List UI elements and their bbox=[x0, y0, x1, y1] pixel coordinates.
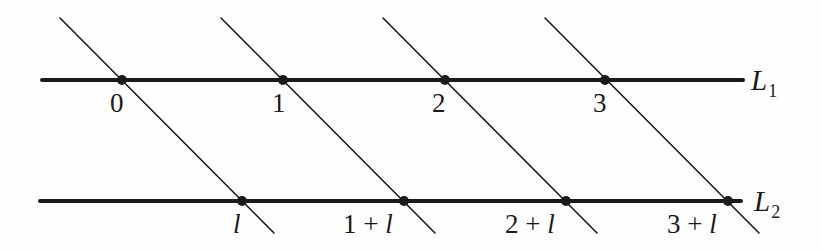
intersection-point-lower-1 bbox=[399, 196, 409, 206]
point-label-lower-3: 3 + l bbox=[667, 211, 717, 238]
intersection-point-upper-0 bbox=[117, 75, 127, 85]
intersection-points-group bbox=[117, 75, 733, 206]
intersection-point-lower-3 bbox=[723, 196, 733, 206]
intersection-point-upper-1 bbox=[278, 75, 288, 85]
line-label-l1: L1 bbox=[751, 66, 777, 100]
point-label-lower-1: 1 + l bbox=[343, 211, 393, 238]
intersection-point-upper-2 bbox=[440, 75, 450, 85]
intersection-point-upper-3 bbox=[600, 75, 610, 85]
point-label-lower-2: 2 + l bbox=[505, 211, 555, 238]
variable-l: l bbox=[709, 209, 717, 239]
line-label-letter: L bbox=[754, 185, 770, 217]
line-label-subscript: 2 bbox=[771, 202, 780, 222]
point-label-upper-2: 2 bbox=[432, 90, 446, 117]
line-label-letter: L bbox=[751, 64, 767, 96]
intersection-point-lower-0 bbox=[237, 196, 247, 206]
variable-l: l bbox=[385, 209, 393, 239]
point-label-upper-0: 0 bbox=[110, 90, 124, 117]
line-label-subscript: 1 bbox=[768, 81, 777, 101]
geometry-figure: 0123l1 + l2 + l3 + lL1L2 bbox=[0, 0, 822, 251]
point-label-upper-3: 3 bbox=[593, 90, 607, 117]
variable-l: l bbox=[233, 209, 241, 239]
intersection-point-lower-2 bbox=[561, 196, 571, 206]
line-label-l2: L2 bbox=[754, 187, 780, 221]
horizontal-lines-group bbox=[40, 80, 743, 201]
point-label-lower-0: l bbox=[233, 211, 241, 238]
variable-l: l bbox=[547, 209, 555, 239]
point-label-upper-1: 1 bbox=[272, 90, 286, 117]
